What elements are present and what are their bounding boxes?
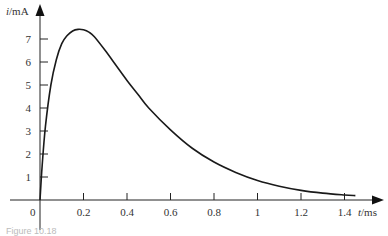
y-tick-label: 2 [26,148,32,160]
x-tick-label: 0.8 [207,206,221,218]
x-tick-label: 0.6 [164,206,178,218]
x-tick-label: 0.4 [120,206,134,218]
x-tick-label: 1.2 [294,206,308,218]
x-tick-label: 0.2 [77,206,91,218]
y-tick-label: 6 [26,56,32,68]
y-tick-label: 7 [26,33,32,45]
x-ticks: 0.20.40.60.811.21.4 [77,193,352,218]
x-tick-label: 1.4 [338,206,352,218]
y-tick-label: 5 [26,79,32,91]
y-ticks: 1234567 [26,33,49,183]
y-tick-label: 3 [26,125,32,137]
current-curve [40,29,355,200]
x-axis-arrow-icon [372,196,384,205]
x-tick-label: 1 [255,206,261,218]
figure-caption: Figure 10.18 [6,226,57,236]
y-tick-label: 4 [26,102,32,114]
chart-canvas: 0.20.40.60.811.21.4 1234567 0 i/mA t/ms [0,0,388,236]
y-axis-arrow-icon [36,4,45,16]
y-axis-label: i/mA [6,5,29,17]
y-tick-label: 1 [26,171,32,183]
origin-label: 0 [30,206,36,218]
x-axis-label: t/ms [358,206,377,218]
